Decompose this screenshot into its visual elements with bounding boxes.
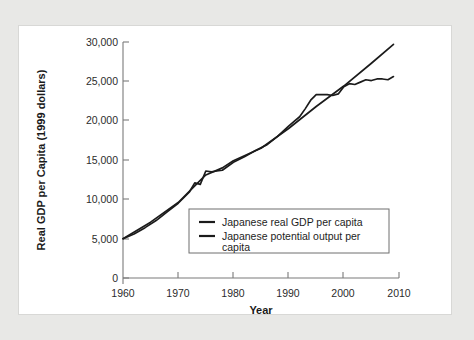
- x-tick-label-1990: 1990: [276, 287, 300, 299]
- chart-legend: Japanese real GDP per capita Japanese po…: [189, 209, 389, 253]
- x-tick-label-1970: 1970: [166, 287, 190, 299]
- x-axis-title: Year: [249, 304, 273, 316]
- y-tick-label-15000: 15,000: [86, 154, 118, 166]
- x-tick-label-2010: 2010: [387, 287, 411, 299]
- y-tick-label-5000: 5,000: [92, 233, 118, 245]
- legend-label-real-gdp: Japanese real GDP per capita: [222, 216, 363, 228]
- y-tick-label-0: 0: [112, 272, 118, 284]
- y-tick-label-30000: 30,000: [86, 36, 118, 48]
- y-tick-label-10000: 10,000: [86, 193, 118, 205]
- legend-label-potential-output-line2: capita: [222, 241, 250, 253]
- y-axis-ticks: [123, 42, 129, 278]
- x-tick-label-2000: 2000: [331, 287, 355, 299]
- figure-panel: 30,000 25,000 20,000 15,000 10,000 5,000…: [18, 25, 452, 315]
- gdp-line-chart: 30,000 25,000 20,000 15,000 10,000 5,000…: [19, 26, 453, 316]
- x-tick-label-1980: 1980: [221, 287, 245, 299]
- y-axis-title: Real GDP per Capita (1999 dollars): [35, 69, 47, 250]
- x-tick-label-1960: 1960: [111, 287, 135, 299]
- y-tick-label-20000: 20,000: [86, 114, 118, 126]
- y-tick-label-25000: 25,000: [86, 75, 118, 87]
